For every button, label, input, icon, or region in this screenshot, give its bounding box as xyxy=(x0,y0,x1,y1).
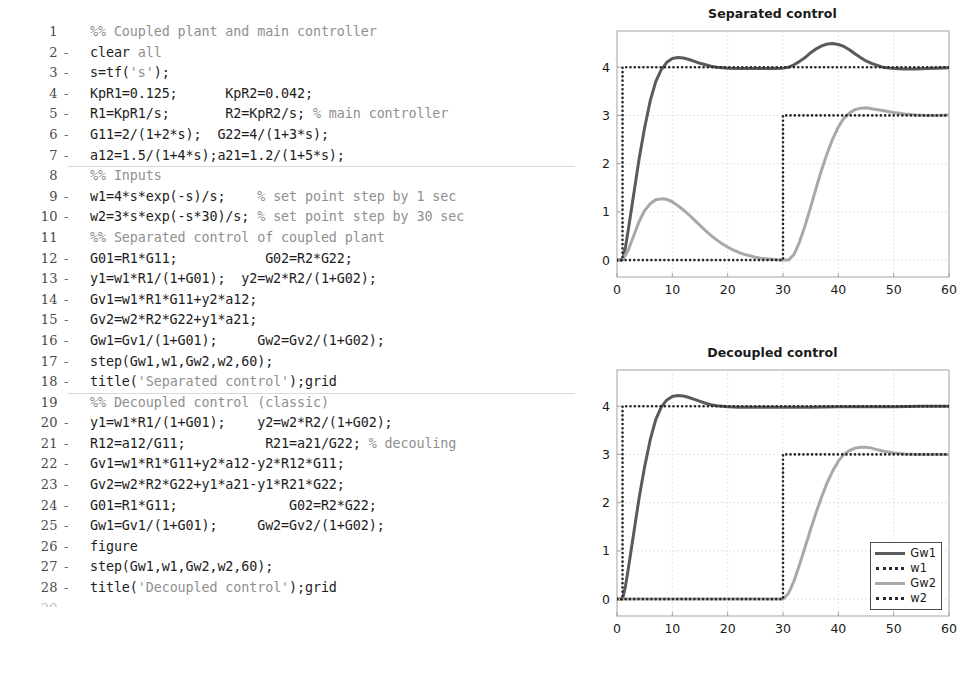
legend-entry: w1 xyxy=(875,561,936,576)
code-line[interactable]: 8%% Inputs xyxy=(0,166,585,187)
line-number: 7 xyxy=(0,146,62,167)
section-separator xyxy=(68,393,575,394)
code-text[interactable]: Gw1=Gv1/(1+G01); Gw2=Gv2/(1+G02); xyxy=(78,331,585,352)
figures-pane: Separated control 010203040506001234 Dec… xyxy=(585,0,960,690)
code-line[interactable]: 2-clear all xyxy=(0,43,585,64)
line-number: 12 xyxy=(0,249,62,270)
executable-marker: - xyxy=(62,516,78,537)
code-text[interactable]: G11=2/(1+2*s); G22=4/(1+3*s); xyxy=(78,125,585,146)
line-number: 25 xyxy=(0,516,62,537)
code-line[interactable]: 23-Gv2=w2*R2*G22+y1*a21-y1*R21*G22; xyxy=(0,475,585,496)
code-text[interactable]: w1=4*s*exp(-s)/s; % set point step by 1 … xyxy=(78,187,585,208)
code-token: Gv2=w2*R2*G22+y1*a21-y1*R21*G22; xyxy=(90,477,345,492)
line-number: 22 xyxy=(0,454,62,475)
code-text[interactable]: Gv1=w1*R1*G11+y2*a12-y2*R12*G11; xyxy=(78,454,585,475)
code-token: step(Gw1,w1,Gw2,w2,60); xyxy=(90,354,273,369)
x-tick-label: 40 xyxy=(830,282,846,297)
code-text[interactable]: G01=R1*G11; G02=R2*G22; xyxy=(78,249,585,270)
code-line[interactable]: 18-title('Separated control');grid xyxy=(0,372,585,393)
executable-marker: - xyxy=(62,557,78,578)
line-number: 2 xyxy=(0,43,62,64)
executable-marker: - xyxy=(62,249,78,270)
code-text[interactable]: w2=3*s*exp(-s*30)/s; % set point step by… xyxy=(78,207,585,228)
code-line[interactable]: 15-Gv2=w2*R2*G22+y1*a21; xyxy=(0,310,585,331)
code-text[interactable]: a12=1.5/(1+4*s);a21=1.2/(1+5*s); xyxy=(78,146,585,167)
code-token: a12=1.5/(1+4*s);a21=1.2/(1+5*s); xyxy=(90,148,345,163)
code-line[interactable]: 21-R12=a12/G11; R21=a21/G22; % decouling xyxy=(0,434,585,455)
code-line[interactable]: 7-a12=1.5/(1+4*s);a21=1.2/(1+5*s); xyxy=(0,146,585,167)
code-comment: % decouling xyxy=(369,436,457,451)
line-number: 20 xyxy=(0,413,62,434)
code-token: R1=KpR1/s; R2=KpR2/s; xyxy=(90,106,313,121)
code-line[interactable]: 13-y1=w1*R1/(1+G01); y2=w2*R2/(1+G02); xyxy=(0,269,585,290)
executable-marker: - xyxy=(62,84,78,105)
chart-legend[interactable]: Gw1w1Gw2w2 xyxy=(870,542,942,610)
code-line[interactable]: 5-R1=KpR1/s; R2=KpR2/s; % main controlle… xyxy=(0,104,585,125)
code-text[interactable]: step(Gw1,w1,Gw2,w2,60); xyxy=(78,557,585,578)
line-number: 17 xyxy=(0,352,62,373)
code-line[interactable]: 20-y1=w1*R1/(1+G01); y2=w2*R2/(1+G02); xyxy=(0,413,585,434)
code-line[interactable]: 19%% Decoupled control (classic) xyxy=(0,393,585,414)
executable-marker: - xyxy=(62,310,78,331)
code-text[interactable]: s=tf('s'); xyxy=(78,63,585,84)
code-line[interactable]: 10-w2=3*s*exp(-s*30)/s; % set point step… xyxy=(0,207,585,228)
code-text[interactable]: Gw1=Gv1/(1+G01); Gw2=Gv2/(1+G02); xyxy=(78,516,585,537)
line-number: 9 xyxy=(0,187,62,208)
executable-marker: - xyxy=(62,578,78,599)
code-text[interactable]: figure xyxy=(78,537,585,558)
code-line[interactable]: 12-G01=R1*G11; G02=R2*G22; xyxy=(0,249,585,270)
legend-label: Gw1 xyxy=(910,547,936,560)
code-text[interactable]: %% Separated control of coupled plant xyxy=(78,228,585,249)
line-number: 29 xyxy=(0,599,62,607)
code-line[interactable]: 27-step(Gw1,w1,Gw2,w2,60); xyxy=(0,557,585,578)
y-tick-label: 0 xyxy=(602,592,610,607)
code-text[interactable]: Gv2=w2*R2*G22+y1*a21-y1*R21*G22; xyxy=(78,475,585,496)
code-text[interactable]: %% Coupled plant and main controller xyxy=(78,22,585,43)
code-line[interactable]: 1%% Coupled plant and main controller xyxy=(0,22,585,43)
line-number: 5 xyxy=(0,104,62,125)
code-line[interactable]: 14-Gv1=w1*R1*G11+y2*a12; xyxy=(0,290,585,311)
code-line[interactable]: 29 xyxy=(0,599,585,607)
code-text[interactable]: G01=R1*G11; G02=R2*G22; xyxy=(78,496,585,517)
code-token: G01=R1*G11; G02=R2*G22; xyxy=(90,498,377,513)
code-text[interactable]: clear all xyxy=(78,43,585,64)
code-editor-pane[interactable]: 1%% Coupled plant and main controller2-c… xyxy=(0,0,585,690)
code-string: 'Separated control' xyxy=(138,374,289,389)
code-token: );grid xyxy=(289,374,337,389)
code-line[interactable]: 6-G11=2/(1+2*s); G22=4/(1+3*s); xyxy=(0,125,585,146)
executable-marker: - xyxy=(62,331,78,352)
code-token: Gw1=Gv1/(1+G01); Gw2=Gv2/(1+G02); xyxy=(90,333,385,348)
code-line[interactable]: 24-G01=R1*G11; G02=R2*G22; xyxy=(0,496,585,517)
code-text[interactable]: R1=KpR1/s; R2=KpR2/s; % main controller xyxy=(78,104,585,125)
code-line[interactable]: 17-step(Gw1,w1,Gw2,w2,60); xyxy=(0,352,585,373)
executable-marker: - xyxy=(62,290,78,311)
code-line[interactable]: 3-s=tf('s'); xyxy=(0,63,585,84)
section-separator xyxy=(68,166,575,167)
code-line-list[interactable]: 1%% Coupled plant and main controller2-c… xyxy=(0,22,585,607)
code-line[interactable]: 28-title('Decoupled control');grid xyxy=(0,578,585,599)
code-text[interactable]: R12=a12/G11; R21=a21/G22; % decouling xyxy=(78,434,585,455)
code-text[interactable]: title('Separated control');grid xyxy=(78,372,585,393)
code-line[interactable]: 25-Gw1=Gv1/(1+G01); Gw2=Gv2/(1+G02); xyxy=(0,516,585,537)
code-line[interactable]: 4-KpR1=0.125; KpR2=0.042; xyxy=(0,84,585,105)
code-token: );grid xyxy=(289,580,337,595)
code-line[interactable]: 16-Gw1=Gv1/(1+G01); Gw2=Gv2/(1+G02); xyxy=(0,331,585,352)
code-line[interactable]: 9-w1=4*s*exp(-s)/s; % set point step by … xyxy=(0,187,585,208)
code-text[interactable]: %% Decoupled control (classic) xyxy=(78,393,585,414)
code-text[interactable]: title('Decoupled control');grid xyxy=(78,578,585,599)
code-text[interactable]: y1=w1*R1/(1+G01); y2=w2*R2/(1+G02); xyxy=(78,413,585,434)
code-comment: %% Coupled plant and main controller xyxy=(90,24,377,39)
code-text[interactable]: %% Inputs xyxy=(78,166,585,187)
code-text[interactable]: step(Gw1,w1,Gw2,w2,60); xyxy=(78,352,585,373)
code-line[interactable]: 22-Gv1=w1*R1*G11+y2*a12-y2*R12*G11; xyxy=(0,454,585,475)
code-text[interactable]: Gv2=w2*R2*G22+y1*a21; xyxy=(78,310,585,331)
code-text[interactable]: Gv1=w1*R1*G11+y2*a12; xyxy=(78,290,585,311)
line-number: 1 xyxy=(0,22,62,43)
code-text[interactable]: KpR1=0.125; KpR2=0.042; xyxy=(78,84,585,105)
figure-title: Separated control xyxy=(585,6,960,21)
code-line[interactable]: 26-figure xyxy=(0,537,585,558)
code-line[interactable]: 11%% Separated control of coupled plant xyxy=(0,228,585,249)
code-token: step(Gw1,w1,Gw2,w2,60); xyxy=(90,559,273,574)
code-token: y1=w1*R1/(1+G01); y2=w2*R2/(1+G02); xyxy=(90,271,377,286)
code-text[interactable]: y1=w1*R1/(1+G01); y2=w2*R2/(1+G02); xyxy=(78,269,585,290)
